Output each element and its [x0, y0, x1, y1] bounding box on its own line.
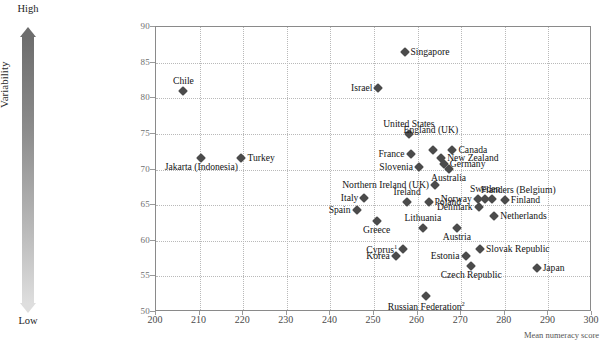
- scatter-marker: [179, 86, 189, 96]
- x-tick-mark: [547, 311, 548, 315]
- point-label: Finland: [511, 195, 540, 205]
- gridline-v: [330, 27, 331, 310]
- scatter-marker: [400, 47, 410, 57]
- scatter-marker: [500, 195, 510, 205]
- point-label: France: [379, 149, 405, 159]
- y-tick-label: 85: [116, 57, 150, 67]
- point-label: Czech Republic: [441, 270, 502, 280]
- point-label: Israel: [351, 82, 372, 92]
- point-label: Turkey: [247, 153, 274, 163]
- gridline-v: [287, 27, 288, 310]
- gridline-v: [243, 27, 244, 310]
- point-label: Greece: [363, 225, 390, 235]
- y-tick-label: 70: [116, 164, 150, 174]
- x-tick-label: 210: [179, 314, 219, 325]
- point-label: Germany: [450, 159, 486, 169]
- point-label: Japan: [543, 263, 565, 273]
- gridline-h: [156, 241, 590, 242]
- x-tick-label: 300: [571, 314, 609, 325]
- scatter-marker: [391, 251, 401, 261]
- point-label: Lithuania: [404, 213, 441, 223]
- x-tick-label: 260: [397, 314, 437, 325]
- variability-gradient-bar: [22, 36, 34, 304]
- point-label: Slovak Republic: [486, 244, 550, 254]
- x-tick-mark: [155, 311, 156, 315]
- x-tick-mark: [286, 311, 287, 315]
- y-axis-title: Variability: [0, 62, 10, 108]
- x-axis-title: Mean numeracy score: [524, 330, 599, 340]
- y-tick-label: 90: [116, 21, 150, 31]
- scatter-marker: [428, 145, 438, 155]
- scatter-marker: [487, 194, 497, 204]
- gridline-h: [156, 134, 590, 135]
- scatter-marker: [474, 202, 484, 212]
- scatter-marker: [489, 211, 499, 221]
- x-tick-label: 220: [222, 314, 262, 325]
- scatter-marker: [359, 193, 369, 203]
- x-tick-mark: [373, 311, 374, 315]
- gridline-v: [505, 27, 506, 310]
- x-tick-mark: [242, 311, 243, 315]
- y-tick-label: 75: [116, 128, 150, 138]
- x-tick-label: 280: [484, 314, 524, 325]
- point-label: Spain: [329, 205, 351, 215]
- point-label: Netherlands: [500, 211, 546, 221]
- y-tick-label: 65: [116, 199, 150, 209]
- point-label: Russian Federation2: [388, 300, 465, 313]
- y-tick-label: 55: [116, 270, 150, 280]
- chart-root: Variability High Low 505560657075808590 …: [0, 0, 609, 341]
- point-label: England (UK): [404, 125, 459, 135]
- x-tick-mark: [199, 311, 200, 315]
- x-tick-label: 250: [353, 314, 393, 325]
- x-tick-label: 290: [527, 314, 567, 325]
- y-tick-label: 60: [116, 235, 150, 245]
- variability-arrow-down-icon: [20, 303, 36, 313]
- gridline-h: [156, 63, 590, 64]
- point-label: Chile: [173, 76, 194, 86]
- gridline-v: [374, 27, 375, 310]
- variability-low-label: Low: [18, 315, 37, 326]
- x-tick-mark: [504, 311, 505, 315]
- point-label: Slovenia: [379, 162, 413, 172]
- scatter-marker: [418, 223, 428, 233]
- point-label: Italy: [341, 193, 359, 203]
- point-label: Austria: [443, 232, 471, 242]
- point-label: Korea: [366, 251, 389, 261]
- gridline-h: [156, 276, 590, 277]
- x-tick-label: 200: [135, 314, 175, 325]
- scatter-marker: [414, 162, 424, 172]
- y-tick-label: 80: [116, 92, 150, 102]
- variability-high-label: High: [18, 3, 39, 14]
- plot-area: SingaporeChileIsraelUnited StatesEngland…: [155, 26, 591, 311]
- x-tick-mark: [591, 311, 592, 315]
- scatter-marker: [406, 149, 416, 159]
- point-label: Ireland: [394, 187, 421, 197]
- x-tick-label: 240: [309, 314, 349, 325]
- point-label: Estonia: [431, 251, 460, 261]
- point-label: Singapore: [411, 47, 450, 57]
- scatter-marker: [398, 244, 408, 254]
- point-label: Denmark: [437, 201, 473, 211]
- scatter-marker: [532, 263, 542, 273]
- x-tick-label: 230: [266, 314, 306, 325]
- x-tick-label: 270: [440, 314, 480, 325]
- scatter-marker: [237, 153, 247, 163]
- x-tick-mark: [329, 311, 330, 315]
- scatter-marker: [475, 244, 485, 254]
- point-label: Jakarta (Indonesia): [165, 162, 238, 172]
- scatter-marker: [352, 205, 362, 215]
- gridline-h: [156, 98, 590, 99]
